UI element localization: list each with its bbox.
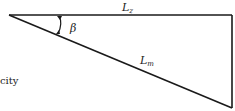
label-lz: Lz [122,2,133,15]
label-lm-sub: m [147,60,154,68]
triangle-diagram [0,0,235,111]
partial-text-city: city [0,76,18,86]
label-beta: β [70,23,76,34]
angle-arrowhead-top [57,16,62,20]
label-lm: Lm [140,55,154,68]
label-lz-sub: z [129,7,133,15]
hypotenuse-line [9,15,232,108]
